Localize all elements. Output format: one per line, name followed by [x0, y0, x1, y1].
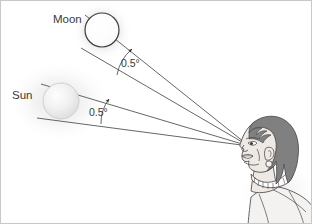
diagram-canvas: Moon Sun 0.5° 0.5° — [1, 1, 312, 224]
moon-body — [85, 13, 119, 47]
sun-disc — [43, 83, 79, 119]
angular-size-diagram: Moon Sun 0.5° 0.5° — [0, 0, 312, 224]
earring — [266, 161, 272, 167]
sun-angle-label: 0.5° — [89, 106, 108, 118]
sun-label: Sun — [12, 89, 32, 101]
earring-highlight — [267, 162, 269, 164]
sun-body — [43, 83, 79, 119]
moon-disc — [85, 13, 119, 47]
moon-label: Moon — [53, 13, 82, 25]
pupil — [250, 142, 253, 145]
moon-angle-label: 0.5° — [121, 57, 140, 69]
ear-shape — [265, 147, 275, 160]
observer-figure — [235, 116, 312, 224]
